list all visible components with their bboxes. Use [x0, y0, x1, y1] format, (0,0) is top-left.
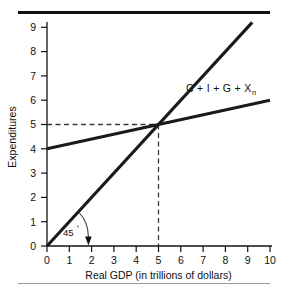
y-tick-label-2: 2 [30, 191, 36, 203]
x-tick-label-1: 1 [66, 254, 72, 266]
keynesian-cross-figure: 0 1 2 3 4 5 6 7 8 9 0 1 [0, 0, 281, 295]
x-tick-label-7: 7 [200, 254, 206, 266]
angle-label-degree-symbol: ° [77, 225, 80, 232]
series-label-subscript: n [252, 88, 256, 97]
y-tick-label-3: 3 [30, 167, 36, 179]
x-tick-label-4: 4 [133, 254, 139, 266]
angle-label-value: 45 [63, 227, 74, 238]
y-tick-label-6: 6 [30, 94, 36, 106]
x-tick-label-2: 2 [89, 254, 95, 266]
x-tick-label-8: 8 [222, 254, 228, 266]
y-axis-title: Expenditures [6, 106, 18, 167]
x-tick-label-0: 0 [44, 254, 50, 266]
y-tick-label-0: 0 [30, 240, 36, 252]
series-label-text: C + I + G + X [186, 82, 251, 94]
x-axis-title: Real GDP (in trillions of dollars) [85, 269, 231, 281]
x-tick-label-5: 5 [156, 254, 162, 266]
y-tick-label-9: 9 [30, 21, 36, 33]
x-tick-label-3: 3 [111, 254, 117, 266]
y-tick-label-4: 4 [30, 143, 36, 155]
x-tick-label-10: 10 [264, 254, 276, 266]
y-tick-label-8: 8 [30, 45, 36, 57]
x-tick-label-9: 9 [245, 254, 251, 266]
x-tick-label-6: 6 [178, 254, 184, 266]
figure-background [0, 0, 281, 295]
chart-canvas: 0 1 2 3 4 5 6 7 8 9 0 1 [0, 0, 281, 295]
y-tick-label-7: 7 [30, 70, 36, 82]
y-tick-label-5: 5 [30, 118, 36, 130]
y-tick-label-1: 1 [30, 216, 36, 228]
